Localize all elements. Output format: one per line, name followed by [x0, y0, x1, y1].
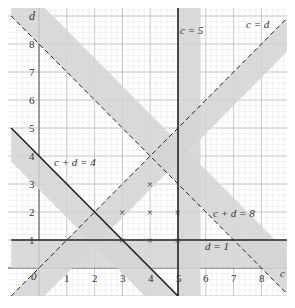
y-axis-label: d [29, 9, 36, 23]
x-axis-label: c [280, 267, 285, 279]
feasible-point-marker: × [119, 206, 125, 218]
y-tick-4: 4 [29, 150, 35, 162]
label-c-plus-d-4: c + d = 4 [54, 156, 96, 168]
y-tick-7: 7 [29, 66, 35, 78]
label-d-equals-1: d = 1 [205, 240, 229, 252]
feasible-point-marker: × [147, 234, 153, 246]
label-c-equals-5: c = 5 [180, 24, 204, 36]
y-tick-6: 6 [29, 94, 35, 106]
y-tick-5: 5 [29, 122, 35, 134]
label-c-plus-d-8: c + d = 8 [213, 207, 255, 219]
shaded-regions [11, 2, 295, 296]
x-tick-5: 5 [176, 272, 182, 284]
x-tick-7: 7 [231, 272, 237, 284]
shade-d-1 [11, 240, 295, 268]
y-tick-8: 8 [29, 38, 35, 50]
y-tick-3: 3 [29, 178, 35, 190]
x-tick-6: 6 [203, 272, 209, 284]
label-c-equals-d: c = d [246, 18, 270, 30]
x-tick-3: 3 [120, 272, 126, 284]
x-tick-4: 4 [148, 272, 154, 284]
x-tick-1: 1 [64, 272, 70, 284]
linear-programming-graph: ××××××× 1 2 3 4 5 6 7 8 0 c 1 2 3 4 5 6 … [0, 0, 295, 308]
feasible-point-marker: × [175, 206, 181, 218]
x-tick-2: 2 [92, 272, 98, 284]
y-tick-2: 2 [29, 206, 35, 218]
x-tick-8: 8 [259, 272, 265, 284]
feasible-point-marker: × [119, 234, 125, 246]
y-tick-1: 1 [29, 234, 35, 246]
feasible-point-marker: × [147, 178, 153, 190]
origin-label: 0 [31, 270, 37, 282]
feasible-point-marker: × [147, 206, 153, 218]
feasible-point-marker: × [175, 234, 181, 246]
